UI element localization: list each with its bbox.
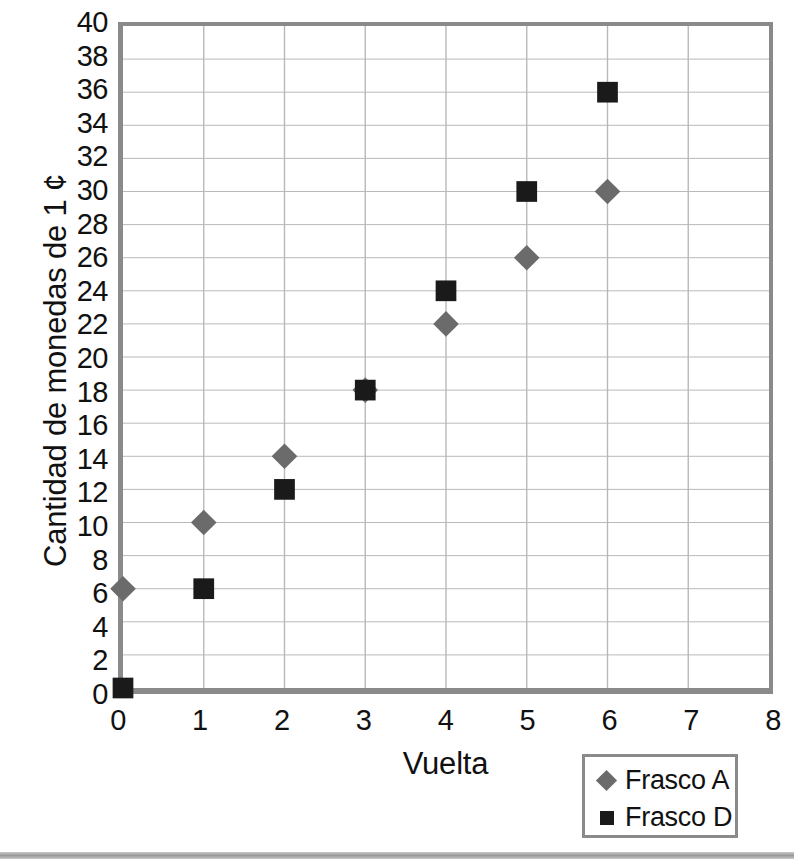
data-point-diamond — [110, 576, 136, 602]
data-point-diamond — [514, 245, 540, 271]
y-axis-tick-label: 34 — [77, 108, 108, 137]
legend-item: Frasco D — [597, 799, 735, 836]
y-axis-tick-label: 24 — [77, 276, 108, 305]
legend-item-label: Frasco D — [625, 804, 732, 831]
x-axis-tick-label: 6 — [601, 706, 617, 735]
x-axis-tick-labels: 012345678 — [0, 706, 794, 746]
y-axis-tick-label: 38 — [77, 41, 108, 70]
data-point-square — [113, 678, 134, 699]
y-axis-tick-label: 30 — [77, 176, 108, 205]
y-axis-tick-label: 8 — [92, 545, 108, 574]
scatter-chart-figure: 0246810121416182022242628303234363840 Ca… — [0, 0, 794, 866]
chart-legend: Frasco AFrasco D — [582, 754, 738, 838]
y-axis-tick-label: 28 — [77, 209, 108, 238]
y-axis-tick-label: 40 — [77, 8, 108, 37]
data-points — [123, 26, 769, 688]
x-axis-tick-label: 1 — [192, 706, 208, 735]
data-point-square — [193, 578, 214, 599]
square-marker-icon — [597, 808, 617, 828]
plot-area — [118, 22, 773, 694]
x-axis-tick-label: 5 — [520, 706, 536, 735]
data-point-square — [597, 82, 618, 103]
x-axis-tick-label: 2 — [274, 706, 290, 735]
x-axis-tick-label: 4 — [438, 706, 454, 735]
y-axis-tick-label: 20 — [77, 344, 108, 373]
x-axis-tick-label: 8 — [765, 706, 781, 735]
y-axis-tick-label: 12 — [77, 478, 108, 507]
y-axis-tick-label: 18 — [77, 377, 108, 406]
data-point-square — [274, 479, 295, 500]
y-axis-tick-label: 22 — [77, 310, 108, 339]
y-axis-tick-label: 2 — [92, 646, 108, 675]
y-axis-tick-label: 14 — [77, 444, 108, 473]
diamond-marker-icon — [597, 771, 617, 791]
x-axis-tick-label: 0 — [110, 706, 126, 735]
y-axis-title: Cantidad de monedas de 1 ¢ — [40, 71, 71, 671]
page-divider-rule — [0, 852, 794, 859]
y-axis-tick-label: 16 — [77, 411, 108, 440]
y-axis-tick-label: 32 — [77, 142, 108, 171]
legend-item-label: Frasco A — [625, 767, 729, 794]
legend-item: Frasco A — [597, 762, 735, 799]
data-point-diamond — [595, 179, 621, 205]
y-axis-tick-label: 0 — [92, 680, 108, 709]
x-axis-tick-label: 3 — [356, 706, 372, 735]
y-axis-tick-label: 4 — [92, 612, 108, 641]
y-axis-tick-label: 26 — [77, 243, 108, 272]
data-point-square — [516, 181, 537, 202]
data-point-diamond — [191, 510, 217, 536]
x-axis-tick-label: 7 — [683, 706, 699, 735]
data-point-diamond — [433, 311, 459, 337]
data-point-square — [436, 280, 457, 301]
y-axis-tick-label: 6 — [92, 579, 108, 608]
data-point-square — [355, 380, 376, 401]
y-axis-tick-label: 10 — [77, 512, 108, 541]
data-point-diamond — [272, 443, 298, 469]
y-axis-tick-label: 36 — [77, 75, 108, 104]
